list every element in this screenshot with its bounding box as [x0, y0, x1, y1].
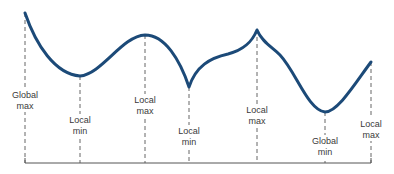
- label-line: min: [178, 137, 200, 148]
- label-line: Global: [12, 90, 38, 101]
- label-line: max: [360, 130, 382, 141]
- label-line: Global: [312, 136, 338, 147]
- label-line: max: [12, 101, 38, 112]
- label-line: Local: [246, 105, 268, 116]
- label-global-max: Global max: [12, 89, 38, 112]
- label-line: max: [246, 116, 268, 127]
- label-line: Local: [69, 115, 91, 126]
- label-local-max-2: Local max: [246, 104, 268, 127]
- label-local-min-1: Local min: [69, 114, 91, 137]
- label-line: Local: [134, 95, 156, 106]
- baseline-ticks: [25, 158, 371, 163]
- label-line: Local: [178, 126, 200, 137]
- label-local-max-3: Local max: [360, 118, 382, 141]
- label-line: max: [134, 106, 156, 117]
- label-line: Local: [360, 119, 382, 130]
- label-line: min: [69, 126, 91, 137]
- label-local-min-2: Local min: [178, 125, 200, 148]
- label-global-min: Global min: [312, 135, 338, 158]
- label-line: min: [312, 147, 338, 158]
- label-local-max-1: Local max: [134, 94, 156, 117]
- function-curve: [25, 13, 371, 112]
